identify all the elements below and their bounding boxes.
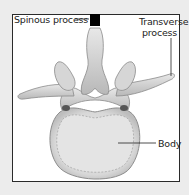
transverse-label-line1: Transverse xyxy=(139,16,188,27)
spinous-marker xyxy=(90,14,100,26)
spinous-process-label: Spinous process xyxy=(14,14,88,25)
transverse-label-line2: process xyxy=(139,27,188,38)
body-label: Body xyxy=(158,138,181,149)
spinous-process xyxy=(81,28,109,94)
transverse-process-label: Transverse process xyxy=(139,16,188,38)
vertebral-body xyxy=(50,108,140,179)
